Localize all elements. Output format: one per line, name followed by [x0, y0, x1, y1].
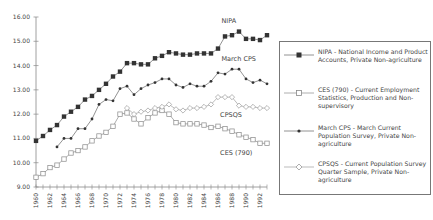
data-point — [112, 99, 115, 102]
data-point — [98, 103, 101, 106]
data-point — [245, 78, 248, 81]
x-tick-label: 1964 — [60, 193, 67, 208]
data-point — [166, 102, 171, 107]
data-point — [140, 87, 143, 90]
data-point — [202, 123, 206, 127]
y-tick-label: 15.00 — [13, 37, 30, 44]
x-tick-label: 1992 — [256, 193, 263, 208]
y-tick-label: 13.00 — [13, 86, 30, 93]
x-tick-label: 1980 — [172, 193, 179, 208]
data-point — [216, 124, 220, 128]
data-point — [69, 151, 73, 155]
x-tick-label: 1968 — [88, 193, 95, 208]
x-tick-label: 1960 — [32, 193, 39, 208]
data-point — [70, 137, 73, 140]
data-point — [217, 71, 220, 74]
data-point — [237, 29, 241, 33]
data-point — [209, 125, 213, 129]
data-point — [62, 157, 66, 161]
data-point — [167, 50, 171, 54]
y-tick-label: 14.00 — [13, 62, 30, 69]
data-point — [231, 68, 234, 71]
legend-swatch-dot-icon — [284, 127, 314, 135]
data-point — [187, 105, 192, 110]
data-point — [62, 114, 66, 118]
data-point — [56, 146, 59, 149]
data-point — [126, 85, 129, 88]
legend: NIPA - National Income and Product Accou… — [279, 41, 431, 195]
data-point — [201, 104, 206, 109]
data-point — [168, 78, 171, 81]
series-ces-790 — [34, 108, 269, 179]
x-tick-label: 1986 — [214, 193, 221, 208]
data-point — [138, 109, 143, 114]
data-point — [105, 98, 108, 101]
legend-swatch-open-diamond-icon — [284, 163, 314, 171]
data-point — [139, 122, 143, 126]
data-point — [230, 33, 234, 37]
data-point — [173, 107, 178, 112]
x-tick-label: 1970 — [102, 193, 109, 208]
legend-label: March CPS - March Current Population Sur… — [318, 124, 428, 149]
data-point — [265, 141, 269, 145]
series-line — [36, 111, 267, 178]
data-point — [69, 110, 73, 114]
series-annotation: CPSQS — [220, 111, 242, 119]
data-point — [48, 165, 52, 169]
data-point — [104, 130, 108, 134]
data-point — [203, 85, 206, 88]
data-point — [174, 51, 178, 55]
data-point — [55, 163, 59, 167]
data-point — [243, 104, 248, 109]
y-tick-label: 11.00 — [13, 134, 30, 141]
data-point — [118, 112, 122, 116]
data-point — [111, 74, 115, 78]
y-tick-label: 9.00 — [17, 183, 31, 190]
data-point — [266, 82, 269, 85]
data-point — [76, 148, 80, 152]
data-point — [223, 127, 227, 131]
data-point — [90, 94, 94, 98]
data-point — [258, 38, 262, 42]
series-cpsqs — [124, 95, 269, 117]
x-tick-label: 1982 — [186, 193, 193, 208]
data-point — [189, 82, 192, 85]
data-point — [118, 69, 122, 73]
data-point — [195, 51, 199, 55]
data-point — [133, 93, 136, 96]
data-point — [76, 105, 80, 109]
data-point — [97, 134, 101, 138]
data-point — [202, 51, 206, 55]
data-point — [146, 116, 150, 120]
data-point — [188, 122, 192, 126]
data-point — [111, 124, 115, 128]
data-point — [34, 139, 38, 143]
data-point — [153, 56, 157, 60]
series-annotation: March CPS — [222, 55, 256, 63]
series-annotation: NIPA — [222, 17, 237, 25]
data-point — [238, 68, 241, 71]
data-point — [91, 118, 94, 121]
data-point — [41, 134, 45, 138]
data-point — [209, 51, 213, 55]
data-point — [152, 105, 157, 110]
data-point — [250, 104, 255, 109]
data-point — [161, 78, 164, 81]
data-point — [265, 33, 269, 37]
data-point — [146, 62, 150, 66]
data-point — [222, 95, 227, 100]
data-point — [125, 111, 129, 115]
data-point — [251, 37, 255, 41]
x-tick-label: 1976 — [144, 193, 151, 208]
y-tick-label: 12.00 — [13, 110, 30, 117]
data-point — [224, 73, 227, 76]
data-point — [83, 97, 87, 101]
x-tick-label: 1972 — [116, 193, 123, 208]
data-point — [154, 81, 157, 84]
x-tick-label: 1974 — [130, 193, 137, 208]
data-point — [175, 84, 178, 87]
x-tick-label: 1966 — [74, 193, 81, 208]
series-nipa — [34, 29, 269, 143]
data-point — [167, 112, 171, 116]
data-point — [104, 82, 108, 86]
